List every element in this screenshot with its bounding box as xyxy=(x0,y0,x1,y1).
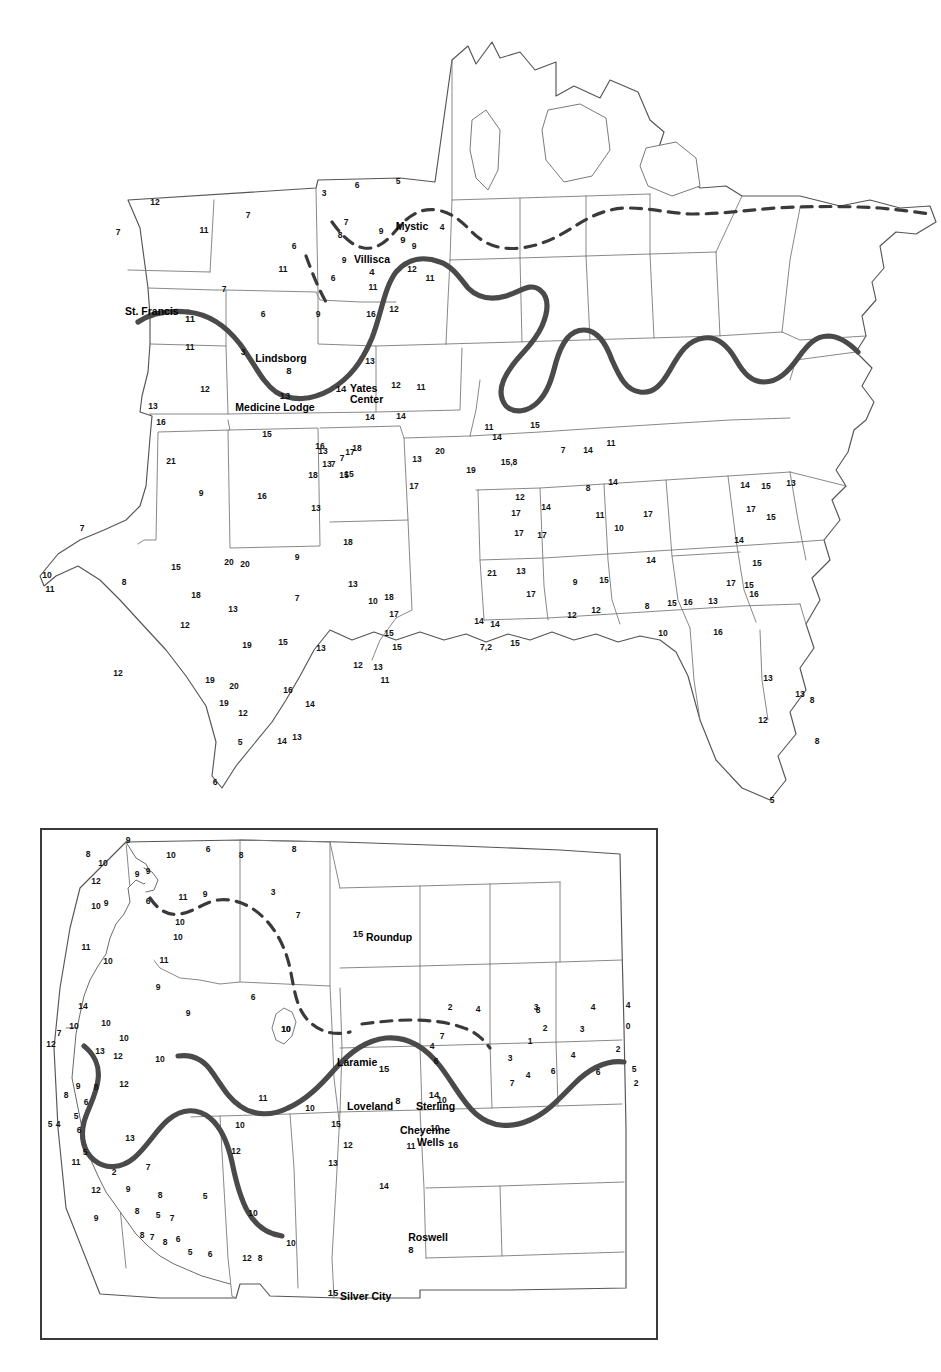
station-value: 12 xyxy=(200,384,210,394)
city-value: 14 xyxy=(429,1089,440,1100)
station-value: 12 xyxy=(119,1079,129,1089)
station-value: 16 xyxy=(713,627,723,637)
station-value: 15 xyxy=(262,429,272,439)
city-label: Cheyenne xyxy=(400,1124,450,1136)
station-value: 15 xyxy=(278,637,288,647)
station-value: 10 xyxy=(98,858,108,868)
station-value: 13 xyxy=(311,503,321,513)
station-value: 9 xyxy=(104,898,109,908)
station-value: 21 xyxy=(487,568,497,578)
station-value: 8 xyxy=(258,1253,263,1263)
city-value: 16 xyxy=(448,1139,459,1150)
station-value: 3 xyxy=(580,1024,585,1034)
station-value: 12 xyxy=(91,876,101,886)
station-value: 10 xyxy=(235,1120,245,1130)
station-value: 13 xyxy=(322,459,332,469)
station-value: 13 xyxy=(412,454,422,464)
station-value: 9 xyxy=(156,982,161,992)
station-value: 6 xyxy=(261,309,266,319)
station-value: 10 xyxy=(305,1103,315,1113)
station-value: 13 xyxy=(148,401,158,411)
city-label: Silver City xyxy=(340,1290,392,1302)
station-value: 7 xyxy=(561,445,566,455)
station-value: 11 xyxy=(381,675,390,685)
station-value: 15 xyxy=(530,420,540,430)
station-value: 6 xyxy=(208,1249,213,1259)
station-value: 17 xyxy=(746,504,756,514)
station-value: 17 xyxy=(345,447,355,457)
station-value: 16 xyxy=(683,597,693,607)
station-value: 10 xyxy=(166,850,176,860)
station-value: 11 xyxy=(82,942,91,952)
station-value: 9 xyxy=(203,889,208,899)
station-value: 7 xyxy=(344,217,349,227)
station-value: 15 xyxy=(761,481,771,491)
station-value: 17 xyxy=(389,609,399,619)
station-value: 2 xyxy=(112,1167,117,1177)
station-value: 13 xyxy=(365,356,375,366)
station-value: 10 xyxy=(173,932,183,942)
station-value: 15 xyxy=(344,469,354,479)
station-value: 10 xyxy=(614,523,624,533)
city-label: Roundup xyxy=(366,931,412,943)
station-value: 2 xyxy=(543,1023,548,1033)
station-value: 6 xyxy=(434,1056,439,1066)
station-value: 18 xyxy=(343,537,353,547)
station-value: 13 xyxy=(786,478,796,488)
station-value: 8 xyxy=(86,849,91,859)
station-value: 14 xyxy=(492,432,502,442)
station-value: 2 xyxy=(616,1044,621,1054)
station-value: 7 xyxy=(296,910,301,920)
station-value: 7 xyxy=(222,284,227,294)
station-value: 17 xyxy=(537,530,547,540)
station-value: 7 xyxy=(80,523,85,533)
station-value: 14 xyxy=(541,502,551,512)
station-value: 9 xyxy=(295,552,300,562)
upper-map-svg: 1277116117691131213376596894912111116121… xyxy=(0,0,941,820)
station-value: 14 xyxy=(78,1001,88,1011)
station-value: 14 xyxy=(365,412,375,422)
city-value: 4 xyxy=(369,266,375,277)
station-value: 7 xyxy=(510,1078,515,1088)
station-value: 5 xyxy=(188,1247,193,1257)
station-value: 8 xyxy=(586,483,591,493)
station-value: 15 xyxy=(171,562,181,572)
station-value: 12 xyxy=(515,492,525,502)
station-value: 15 xyxy=(667,598,677,608)
city-value: 15 xyxy=(328,1287,339,1298)
station-value: 13 xyxy=(348,579,358,589)
station-value: 12 xyxy=(407,264,417,274)
station-value: 16 xyxy=(257,491,267,501)
station-value: 12 xyxy=(567,610,577,620)
figure-root: 1277116117691131213376596894912111116121… xyxy=(0,0,941,1372)
station-value: 9 xyxy=(146,866,151,876)
station-value: 13 xyxy=(292,732,302,742)
station-value: 14 xyxy=(608,477,618,487)
station-value: 6 xyxy=(176,1234,181,1244)
station-value: 14 xyxy=(396,411,406,421)
station-value: 4 xyxy=(476,1004,481,1014)
station-value: 11 xyxy=(160,955,169,965)
station-value: 11 xyxy=(72,1157,81,1167)
station-value: 4 xyxy=(626,1000,631,1010)
station-value: 4 xyxy=(430,1041,435,1051)
station-value: 7 xyxy=(295,593,300,603)
station-value: 6 xyxy=(84,1097,89,1107)
station-value: 17 xyxy=(643,509,653,519)
station-value: 12 xyxy=(353,660,363,670)
station-value: 11 xyxy=(485,422,494,432)
station-value: 5 xyxy=(74,1111,79,1121)
city-value: 15 xyxy=(379,1063,390,1074)
upper-map-panel: 1277116117691131213376596894912111116121… xyxy=(0,0,941,820)
station-value: 6 xyxy=(551,1066,556,1076)
station-value: 18 xyxy=(384,592,394,602)
city-label: Sterling xyxy=(416,1100,455,1112)
city-label: Roswell xyxy=(408,1231,448,1243)
station-value: 9 xyxy=(126,1184,131,1194)
station-value: 8 xyxy=(158,1190,163,1200)
station-value: 14 xyxy=(646,555,656,565)
station-value: 7 xyxy=(116,227,121,237)
station-value: 12 xyxy=(238,708,248,718)
station-value: 11 xyxy=(417,382,426,392)
lower-map-svg: 8910688101299109611937111011101091469101… xyxy=(40,828,658,1340)
